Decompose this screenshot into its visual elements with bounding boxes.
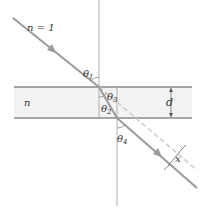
refraction-slab-diagram: n = 1 n θ1 θ2 θ3 θ4 d x <box>0 0 204 208</box>
outer-medium-label: n = 1 <box>27 22 55 33</box>
displacement-label: x <box>175 153 181 164</box>
arrowhead-icon <box>153 148 162 157</box>
slab-medium-label: n <box>24 97 30 108</box>
theta1-label: θ1 <box>83 68 94 81</box>
theta4-label: θ4 <box>117 133 128 146</box>
thickness-label: d <box>166 96 173 109</box>
theta4-arc <box>117 125 125 128</box>
displacement-tick <box>164 165 169 170</box>
displacement-tick <box>181 145 186 150</box>
